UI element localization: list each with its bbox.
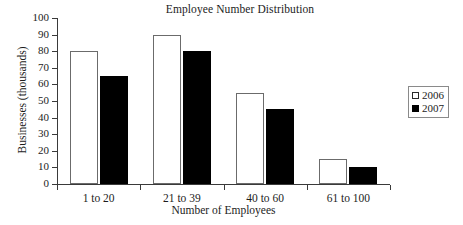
y-axis-tick-label: 30 — [38, 127, 49, 140]
legend-item-2007: 2007 — [412, 102, 444, 115]
y-axis-tick: 40 — [52, 118, 57, 119]
filled-square-icon — [412, 105, 419, 112]
y-axis-tick: 30 — [52, 134, 57, 135]
x-axis-tick — [224, 185, 225, 190]
y-axis-tick-label: 10 — [38, 160, 49, 173]
y-axis-tick-label: 60 — [38, 77, 49, 90]
x-axis-category-label: 40 to 60 — [224, 192, 307, 204]
bar-2006-1-to-20 — [70, 51, 98, 184]
bar-2007-21-to-39 — [183, 51, 211, 184]
y-axis-tick: 70 — [52, 68, 57, 69]
y-axis-tick-label: 70 — [38, 61, 49, 74]
bar-chart: Employee Number Distribution Businesses … — [0, 0, 463, 225]
y-axis-tick: 90 — [52, 35, 57, 36]
y-axis-tick: 10 — [52, 167, 57, 168]
x-axis-tick — [140, 185, 141, 190]
y-axis-tick: 100 — [52, 18, 57, 19]
open-square-icon — [412, 92, 419, 99]
y-axis-tick: 50 — [52, 101, 57, 102]
y-axis-tick: 80 — [52, 51, 57, 52]
x-axis-label: Number of Employees — [57, 204, 390, 216]
bar-2006-40-to-60 — [236, 93, 264, 184]
x-axis-tick — [390, 185, 391, 190]
y-axis-line — [57, 18, 58, 185]
y-axis-tick-label: 90 — [38, 28, 49, 41]
bar-2007-1-to-20 — [100, 76, 128, 184]
bar-2007-61-to-100 — [349, 167, 377, 184]
y-axis-tick-label: 50 — [38, 94, 49, 107]
chart-title: Employee Number Distribution — [100, 3, 380, 15]
legend-item-2006: 2006 — [412, 89, 444, 102]
y-axis-tick-label: 100 — [33, 11, 50, 24]
x-axis-category-label: 1 to 20 — [57, 192, 140, 204]
bar-2006-61-to-100 — [319, 159, 347, 184]
y-axis-tick-label: 20 — [38, 144, 49, 157]
y-axis-tick: 20 — [52, 151, 57, 152]
x-axis-tick — [57, 185, 58, 190]
x-axis-tick — [307, 185, 308, 190]
y-axis-tick-label: 40 — [38, 111, 49, 124]
y-axis-label-container: Businesses (thousands) — [16, 20, 32, 180]
x-axis-category-label: 61 to 100 — [307, 192, 390, 204]
y-axis-tick: 60 — [52, 84, 57, 85]
plot-area: 01020304050607080901001 to 2021 to 3940 … — [57, 18, 390, 185]
y-axis-label: Businesses (thousands) — [16, 20, 28, 180]
legend-item-label: 2007 — [422, 102, 444, 115]
bar-2006-21-to-39 — [153, 35, 181, 184]
y-axis-tick-label: 0 — [44, 177, 50, 190]
y-axis-tick-label: 80 — [38, 44, 49, 57]
legend-item-label: 2006 — [422, 89, 444, 102]
bar-2007-40-to-60 — [266, 109, 294, 184]
x-axis-category-label: 21 to 39 — [140, 192, 223, 204]
chart-legend: 20062007 — [408, 86, 449, 118]
